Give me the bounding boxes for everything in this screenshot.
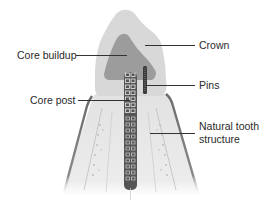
pins-leader-line (147, 85, 195, 86)
label-pins: Pins (199, 79, 219, 91)
core-buildup-leader-line (76, 55, 127, 56)
label-natural-tooth-line1: Natural tooth (199, 120, 259, 132)
core-post-leader-line (78, 100, 130, 101)
label-natural-tooth-line2: structure (199, 133, 240, 145)
label-crown: Crown (199, 39, 229, 51)
crown-leader-line (145, 45, 195, 46)
natural-tooth-leader-line (150, 133, 195, 134)
label-core-buildup: Core buildup (17, 49, 77, 61)
tooth-diagram: Crown Core buildup Pins Core post Natura… (0, 0, 271, 206)
label-core-post: Core post (30, 94, 76, 106)
core-post (124, 72, 137, 200)
pin (143, 66, 147, 94)
